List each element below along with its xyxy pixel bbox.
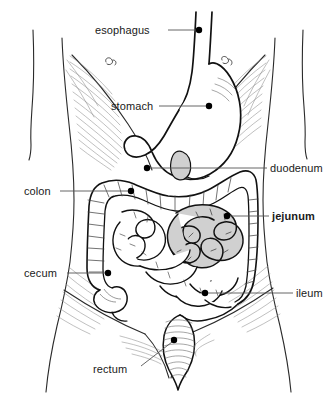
label-esophagus: esophagus	[95, 25, 149, 36]
label-duodenum: duodenum	[270, 163, 323, 174]
anatomy-illustration	[0, 0, 336, 411]
label-rectum: rectum	[93, 364, 129, 375]
anatomical-diagram: esophagusstomachduodenumcolonjejunumcecu…	[0, 0, 336, 411]
label-jejunum: jejunum	[272, 211, 315, 222]
callout-dot-rectum	[171, 337, 177, 343]
callout-dot-stomach	[206, 103, 212, 109]
callout-dot-cecum	[105, 270, 111, 276]
callout-dot-esophagus	[196, 27, 202, 33]
callout-dot-colon	[128, 188, 134, 194]
label-ileum: ileum	[296, 288, 323, 299]
label-colon: colon	[24, 186, 54, 197]
label-cecum: cecum	[24, 268, 54, 279]
callout-dot-duodenum	[144, 165, 150, 171]
callout-dot-jejunum	[224, 213, 230, 219]
label-stomach: stomach	[111, 101, 153, 112]
callout-dot-ileum	[202, 290, 208, 296]
